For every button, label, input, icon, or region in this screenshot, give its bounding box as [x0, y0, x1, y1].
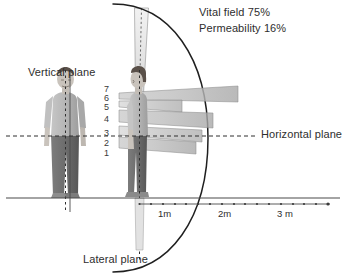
annotation-vital-field: Vital field 75% — [199, 6, 270, 18]
ruler-label-3m: 3 m — [277, 208, 293, 219]
level-number-3: 3 — [104, 128, 109, 138]
lateral-plane-wedge — [135, 198, 144, 250]
ruler-label-2m: 2m — [218, 208, 231, 219]
diagram-canvas: Vital field 75% Permeability 16% Vertica… — [0, 0, 346, 277]
label-vertical-plane: Vertical plane — [28, 66, 95, 78]
label-lateral-plane: Lateral plane — [83, 253, 148, 265]
level-number-5: 5 — [104, 102, 109, 112]
ruler-label-1m: 1m — [158, 208, 171, 219]
figure-frontal — [44, 67, 86, 212]
label-horizontal-plane: Horizontal plane — [261, 128, 342, 140]
annotation-permeability: Permeability 16% — [199, 22, 286, 34]
distance-ruler — [138, 202, 330, 205]
level-number-2: 2 — [104, 138, 109, 148]
level-number-1: 1 — [104, 148, 109, 158]
level-number-4: 4 — [104, 114, 109, 124]
